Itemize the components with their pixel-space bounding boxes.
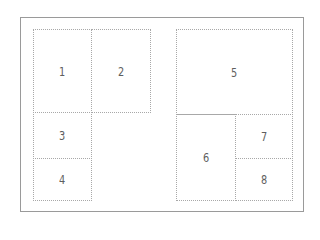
cell-label: 5 [231, 65, 237, 80]
cell-1: 1 [33, 29, 92, 113]
cell-7: 7 [235, 114, 293, 159]
cell-label: 4 [59, 172, 65, 187]
cell-8: 8 [235, 158, 293, 201]
cell-label: 3 [59, 128, 65, 143]
cell-label: 2 [118, 64, 124, 79]
cell-label: 6 [203, 150, 209, 165]
cell-label: 7 [261, 129, 267, 144]
cell-label: 8 [261, 172, 267, 187]
cell-4: 4 [33, 158, 92, 201]
cell-3: 3 [33, 112, 92, 159]
cell-label: 1 [59, 64, 65, 79]
cell-6: 6 [176, 114, 236, 201]
cell-5: 5 [176, 29, 293, 115]
cell-2: 2 [91, 29, 151, 113]
